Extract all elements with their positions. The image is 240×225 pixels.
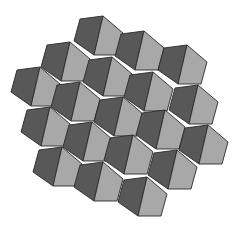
- tiling-canvas: [0, 0, 240, 225]
